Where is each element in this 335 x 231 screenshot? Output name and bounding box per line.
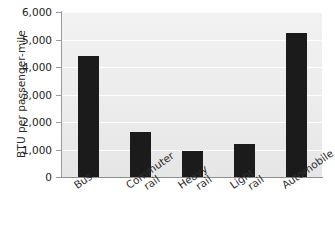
y-tick-mark [56,95,61,96]
gridline [62,95,322,96]
y-tick-mark [56,67,61,68]
y-tick-label: 6,000 [6,6,52,18]
y-tick-label: 3,000 [6,89,52,101]
y-tick-label: 5,000 [6,34,52,46]
gridline [62,122,322,123]
y-tick-label: 1,000 [6,144,52,156]
y-tick-mark [56,177,61,178]
plot-area [62,12,322,177]
gridline [62,67,322,68]
y-tick-mark [56,12,61,13]
bar [286,33,307,177]
y-tick-label: 4,000 [6,61,52,73]
y-tick-mark [56,150,61,151]
gridline [62,40,322,41]
bar [78,56,99,177]
gridline [62,12,322,13]
y-tick-mark [56,122,61,123]
y-tick-label: 2,000 [6,116,52,128]
y-tick-label: 0 [6,171,52,183]
y-tick-mark [56,40,61,41]
